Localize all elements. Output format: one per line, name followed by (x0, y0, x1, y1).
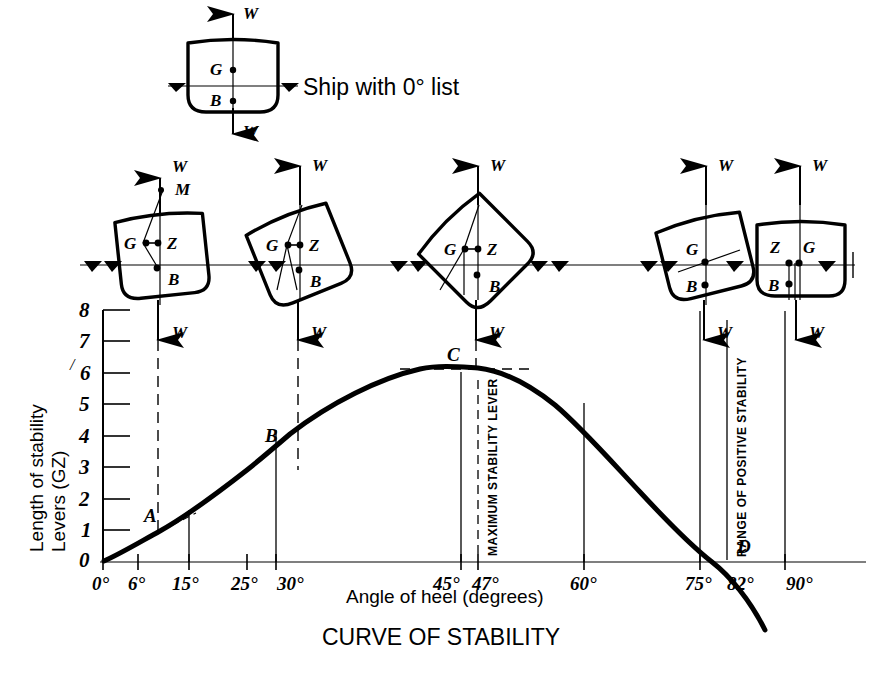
x-tick-30: 30° (277, 573, 304, 595)
y-tick-5: 5 (79, 392, 90, 417)
max-stability-lever-label: MAXIMUM STABILITY LEVER (486, 378, 500, 556)
x-tick-15: 15° (172, 573, 199, 595)
ship-90deg-z-label: Z (770, 238, 780, 258)
range-positive-stability-label: RANGE OF POSITIVE STABILITY (735, 357, 749, 557)
ship-75deg (655, 166, 757, 340)
ship-0deg-b-label: B (210, 91, 221, 111)
ship-0deg-note: Ship with 0° list (303, 74, 459, 101)
ship-90deg-w-top-label: W (812, 156, 827, 176)
x-tick-6: 6° (128, 573, 145, 595)
x-tick-25: 25° (231, 573, 258, 595)
x-tick-60: 60° (570, 573, 597, 595)
ship-90deg-b-label: B (768, 276, 779, 296)
y-axis-title-line1: Length of stability (26, 404, 48, 552)
ship-6deg-w-bottom-label: W (172, 323, 187, 343)
ship-45deg-b-label: B (489, 277, 500, 297)
ship-6deg-m-label: M (175, 180, 190, 200)
x-tick-82: 82° (727, 573, 754, 595)
chart-axes (100, 310, 866, 570)
ship-75deg-b-label: B (686, 277, 697, 297)
main-waterline (80, 252, 855, 278)
y-tick-0: 0 (79, 548, 90, 573)
y-tick-3: 3 (79, 455, 90, 480)
ship-25deg-w-top-label: W (312, 156, 327, 176)
ship-25deg-b-label: B (310, 272, 321, 292)
point-b-label: B (265, 425, 278, 447)
y-tick-1: 1 (81, 518, 92, 543)
ship-75deg-w-top-label: W (718, 156, 733, 176)
ship-0deg-w-top-label: W (243, 4, 258, 24)
ship-75deg-g-label: G (686, 240, 698, 260)
ship-45deg (416, 166, 539, 340)
ship-25deg-w-bottom-label: W (311, 323, 326, 343)
point-a-label: A (144, 505, 157, 527)
x-tick-75: 75° (685, 573, 712, 595)
ship-45deg-z-label: Z (487, 240, 497, 260)
ship-0deg-w-bottom-label: W (243, 122, 258, 142)
figure-caption: CURVE OF STABILITY (322, 624, 560, 651)
x-axis-title: Angle of heel (degrees) (346, 586, 544, 608)
x-tick-90: 90° (786, 573, 813, 595)
y-tick-6: 6 (80, 361, 91, 386)
y-tick-2: 2 (79, 487, 90, 512)
ship-6deg-b-label: B (168, 270, 179, 290)
ship-0deg (168, 14, 299, 134)
ship-25deg (245, 166, 356, 340)
y-prime-mark: / (70, 356, 74, 374)
y-tick-7: 7 (79, 329, 90, 354)
y-axis-title-line2: Levers (GZ) (48, 451, 70, 552)
ship-6deg-z-label: Z (167, 234, 177, 254)
ship-6deg-g-label: G (124, 234, 136, 254)
ship-90deg-g-label: G (803, 238, 815, 258)
ship-0deg-g-label: G (210, 60, 222, 80)
ship-6deg-w-top-label: W (172, 157, 187, 177)
ship-90deg-w-bottom-label: W (809, 323, 824, 343)
ship-75deg-w-bottom-label: W (717, 323, 732, 343)
ship-45deg-w-top-label: W (490, 156, 505, 176)
y-tick-4: 4 (79, 424, 90, 449)
ship-45deg-w-bottom-label: W (489, 323, 504, 343)
y-tick-8: 8 (79, 298, 90, 323)
stability-curve-figure: W W G B Ship with 0° list W M G Z B W W … (0, 0, 871, 682)
ship-6deg (115, 178, 211, 340)
point-c-label: C (447, 344, 460, 366)
x-tick-0: 0° (92, 573, 109, 595)
ship-25deg-g-label: G (266, 236, 278, 256)
ship-45deg-g-label: G (444, 240, 456, 260)
ship-25deg-z-label: Z (309, 236, 319, 256)
